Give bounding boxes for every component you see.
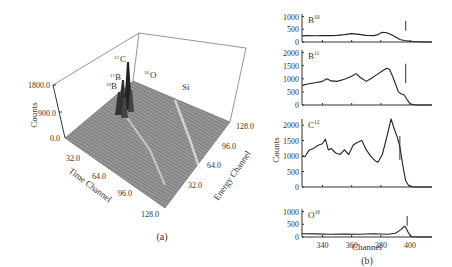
annotation-b10: 10 B xyxy=(106,81,117,91)
z-tick-label: 0.0 xyxy=(50,134,60,143)
annotation-element: C xyxy=(120,54,126,64)
x-axis-label: Time Channel xyxy=(67,166,114,205)
subplot-c12: 0500100015002000C12 xyxy=(283,119,432,192)
annotation-mass: 12 xyxy=(114,55,120,60)
y-tick-label: 1500 xyxy=(283,62,299,71)
y-tick-label: 500 xyxy=(287,168,299,177)
y-tick-label: 1500 xyxy=(283,137,299,146)
z-tick-label: 900.0 xyxy=(38,109,56,118)
y-tick-label: 500 xyxy=(287,220,299,229)
x-tick-label: 64.0 xyxy=(92,172,106,181)
y-tick-label: 32.0 xyxy=(188,181,202,190)
annotation-o16: 16 O xyxy=(144,70,157,80)
y-tick-label: 500 xyxy=(287,88,299,97)
panel-a-surface-plot: 1800.0 900.0 0.0 Counts 32.0 64.0 96.0 1… xyxy=(28,33,254,243)
y-tick-label: 1000 xyxy=(283,152,299,161)
series-line xyxy=(302,32,432,42)
x-tick-label: 96.0 xyxy=(118,189,132,198)
y-tick-label: 1000 xyxy=(283,13,299,22)
annotation-element: Si xyxy=(182,82,190,92)
x-tick-label: 32.0 xyxy=(66,154,80,163)
y-axis-label: Counts xyxy=(271,137,281,163)
y-tick-label: 500 xyxy=(287,25,299,34)
annotation-si: Si xyxy=(182,82,190,92)
x-tick-label: 340 xyxy=(316,241,328,250)
y-tick-label: 0 xyxy=(295,233,299,242)
peaks-cluster xyxy=(115,62,134,118)
z-axis-label: Counts xyxy=(29,102,39,128)
y-tick-label: 0 xyxy=(295,38,299,47)
figure: 1800.0 900.0 0.0 Counts 32.0 64.0 96.0 1… xyxy=(0,0,452,267)
annotation-c12: 12 C xyxy=(114,54,126,64)
isotope-label: C12 xyxy=(308,119,320,130)
series-line xyxy=(302,68,432,105)
series-line xyxy=(302,226,432,237)
subplot-o16: 05001000O16 xyxy=(283,208,432,242)
y-tick-label: 96.0 xyxy=(222,142,236,151)
annotation-mass: 16 xyxy=(144,70,150,75)
y-tick-label: 1000 xyxy=(283,75,299,84)
y-axis-label: Energy Channel xyxy=(211,148,253,202)
panel-a-caption: (a) xyxy=(156,231,167,243)
y-tick-label: 2000 xyxy=(283,49,299,58)
annotation-element: O xyxy=(150,70,157,80)
y-tick-label: 0 xyxy=(295,101,299,110)
y-tick-label: 128.0 xyxy=(236,122,254,131)
isotope-label: B10 xyxy=(308,14,320,25)
panel-b-line-plots: 05001000B100500100015002000B110500100015… xyxy=(271,13,432,267)
panel-b-caption: (b) xyxy=(361,255,373,267)
y-tick-label: 64.0 xyxy=(207,161,221,170)
y-tick-label: 2000 xyxy=(283,121,299,130)
series-line xyxy=(302,119,432,187)
subplot-b10: 05001000B10 xyxy=(283,13,432,47)
z-tick-label: 1800.0 xyxy=(28,81,50,90)
subplot-b11: 0500100015002000B11 xyxy=(283,49,432,110)
x-axis-label: Channel xyxy=(352,242,382,252)
x-tick-label: 400 xyxy=(404,241,416,250)
annotation-element: B xyxy=(111,81,117,91)
isotope-label: B11 xyxy=(308,50,320,61)
x-tick-label: 128.0 xyxy=(141,210,159,219)
y-tick-label: 1000 xyxy=(283,208,299,217)
y-tick-label: 0 xyxy=(295,183,299,192)
isotope-label: O16 xyxy=(308,209,320,220)
